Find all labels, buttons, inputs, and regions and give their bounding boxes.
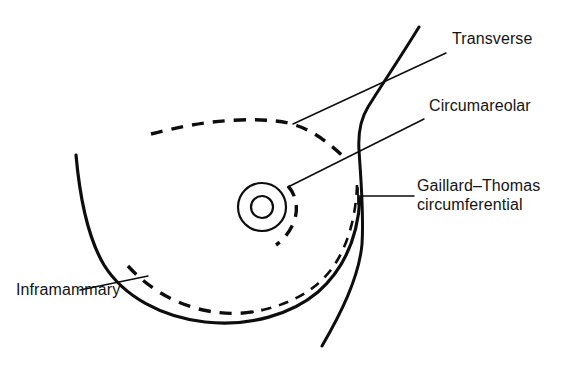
label-transverse: Transverse <box>452 29 532 48</box>
circumareolar-incision-arc <box>276 186 296 245</box>
label-circumareolar: Circumareolar <box>429 96 531 115</box>
breast-incisions-figure: Transverse Circumareolar Gaillard–Thomas… <box>0 0 566 367</box>
transverse-leader-line <box>293 53 446 124</box>
label-inframammary: Inframammary <box>16 280 120 299</box>
label-gaillard-thomas-circumferential: Gaillard–Thomascircumferential <box>417 176 540 214</box>
gaillard-thomas-incision-arc <box>252 185 357 312</box>
chest-wall-contour <box>322 27 419 346</box>
label-gaillard-line1: Gaillard–Thomas <box>417 177 540 194</box>
transverse-incision-line <box>151 120 345 158</box>
circumareolar-leader-line <box>288 119 424 187</box>
nipple <box>251 196 273 218</box>
label-gaillard-line2: circumferential <box>417 196 523 213</box>
areola <box>238 183 286 231</box>
